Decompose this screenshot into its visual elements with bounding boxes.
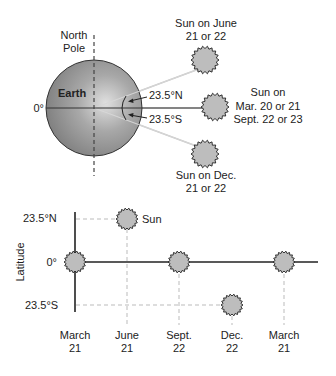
sun-equinox-label-1: Sun on xyxy=(251,86,286,98)
x-label-sept-1: Sept. xyxy=(166,329,192,341)
sun-june-graph-icon xyxy=(116,208,138,230)
earth-sun-diagram: North Pole Earth 0° 23.5°N 23.5°S Sun on… xyxy=(33,17,302,194)
x-label-june-2: 21 xyxy=(121,342,133,354)
seasons-diagram: North Pole Earth 0° 23.5°N 23.5°S Sun on… xyxy=(0,0,336,376)
sun-march2-icon xyxy=(273,251,295,273)
equator-label: 0° xyxy=(33,102,44,114)
north-pole-label-1: North xyxy=(61,29,88,41)
sun-body xyxy=(221,294,243,316)
sun-march-icon xyxy=(64,251,86,273)
sun-body xyxy=(191,140,219,168)
sun-june-label-1: Sun on June xyxy=(175,17,237,29)
earth-label: Earth xyxy=(58,87,86,99)
y-tick-23s: 23.5°S xyxy=(25,299,58,311)
sun-december-icon xyxy=(191,140,219,168)
sun-equinox-icon xyxy=(201,93,229,121)
x-label-dec-1: Dec. xyxy=(221,329,244,341)
south-angle-label: 23.5°S xyxy=(149,113,182,125)
x-label-june-1: June xyxy=(115,329,139,341)
x-label-march2-1: March xyxy=(269,329,300,341)
x-label-dec-2: 22 xyxy=(226,342,238,354)
sun-dec-label-1: Sun on Dec. xyxy=(176,169,237,181)
sun-dec-label-2: 21 or 22 xyxy=(186,182,226,194)
sun-body xyxy=(273,251,295,273)
x-label-march2-2: 21 xyxy=(278,342,290,354)
sun-equinox-label-3: Sept. 22 or 23 xyxy=(233,113,302,125)
sun-june-label-2: 21 or 22 xyxy=(186,30,226,42)
x-label-sept-2: 22 xyxy=(173,342,185,354)
north-angle-label: 23.5°N xyxy=(149,89,183,101)
sun-equinox-label-2: Mar. 20 or 21 xyxy=(236,100,301,112)
x-label-march-1: March xyxy=(60,329,91,341)
sun-body xyxy=(201,93,229,121)
sun-sept-icon xyxy=(168,251,190,273)
y-tick-23n: 23.5°N xyxy=(23,212,57,224)
x-label-march-2: 21 xyxy=(69,342,81,354)
sun-body xyxy=(64,251,86,273)
sun-label: Sun xyxy=(142,213,162,225)
sun-body xyxy=(168,251,190,273)
y-axis-title: Latitude xyxy=(14,242,26,281)
y-tick-0: 0° xyxy=(46,256,57,268)
latitude-graph: 23.5°N 0° 23.5°S Latitude March 21 June … xyxy=(14,208,318,354)
sun-body xyxy=(116,208,138,230)
north-pole-label-2: Pole xyxy=(63,42,85,54)
sun-dec-graph-icon xyxy=(221,294,243,316)
